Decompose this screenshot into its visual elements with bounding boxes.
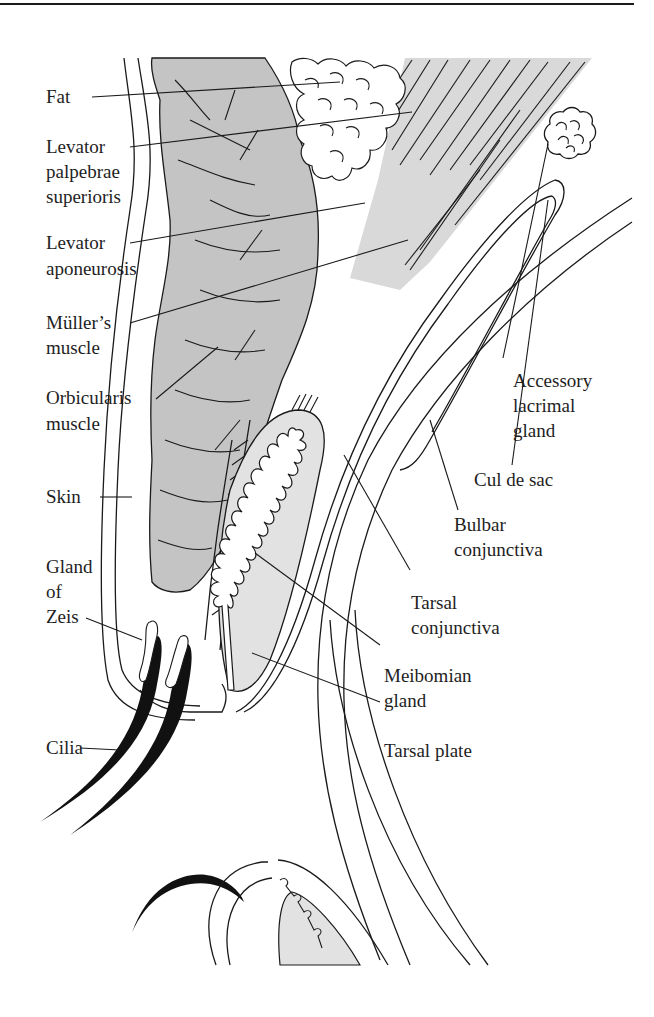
label-gland-of-zeis-line2: of xyxy=(46,581,63,602)
label-levator-aponeurosis-line2: aponeurosis xyxy=(46,258,137,279)
label-tarsal-conjunctiva-line1: Tarsal xyxy=(411,592,457,613)
label-levator-palpebrae-line1: Levator xyxy=(46,136,106,157)
eyelid-diagram: Fat Levator palpebrae superioris Levator… xyxy=(0,0,654,1017)
label-gland-of-zeis-line1: Gland xyxy=(46,556,93,577)
label-cul-de-sac: Cul de sac xyxy=(474,469,553,490)
label-meibomian-line2: gland xyxy=(384,690,427,711)
lower-lid-lash xyxy=(132,874,244,933)
label-fat: Fat xyxy=(46,86,71,107)
eyelid-anatomy-figure: Fat Levator palpebrae superioris Levator… xyxy=(0,0,654,1017)
lower-lid-outer xyxy=(209,862,268,965)
accessory-lacrimal-gland-shape xyxy=(544,108,595,159)
label-orbicularis-line2: muscle xyxy=(46,413,100,434)
label-mullers-muscle-line1: Müller’s xyxy=(46,312,111,333)
label-bulbar-conjunctiva-line1: Bulbar xyxy=(454,514,506,535)
globe-arc-1 xyxy=(318,198,632,960)
label-accessory-lacrimal-line2: lacrimal xyxy=(513,395,575,416)
label-accessory-lacrimal-line3: gland xyxy=(513,420,556,441)
labels-left: Fat Levator palpebrae superioris Levator… xyxy=(46,86,137,758)
label-meibomian-line1: Meibomian xyxy=(384,665,472,686)
label-orbicularis-line1: Orbicularis xyxy=(46,387,131,408)
label-tarsal-plate: Tarsal plate xyxy=(384,740,472,761)
label-levator-aponeurosis-line1: Levator xyxy=(46,232,106,253)
globe-arc-4 xyxy=(355,610,488,965)
label-gland-of-zeis-line3: Zeis xyxy=(46,606,79,627)
label-mullers-muscle-line2: muscle xyxy=(46,337,100,358)
labels-right: Accessory lacrimal gland Cul de sac Bulb… xyxy=(384,370,593,761)
label-bulbar-conjunctiva-line2: conjunctiva xyxy=(454,539,543,560)
label-levator-palpebrae-line2: palpebrae xyxy=(46,161,120,182)
label-cilia: Cilia xyxy=(46,737,84,758)
label-skin: Skin xyxy=(46,486,81,507)
label-accessory-lacrimal-line1: Accessory xyxy=(513,370,593,391)
globe-arc-2 xyxy=(344,222,632,965)
label-tarsal-conjunctiva-line2: conjunctiva xyxy=(411,617,500,638)
tarsal-top-fibers xyxy=(292,394,318,412)
label-levator-palpebrae-line3: superioris xyxy=(46,186,121,207)
